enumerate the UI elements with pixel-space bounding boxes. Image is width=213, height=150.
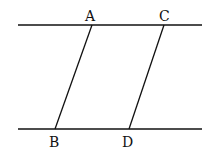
parallel-lines-diagram: A C B D <box>0 0 213 150</box>
segment-cd <box>129 25 164 129</box>
segment-ab <box>55 25 92 129</box>
point-label-a: A <box>84 8 96 24</box>
point-label-b: B <box>49 134 59 150</box>
point-label-d: D <box>122 134 133 150</box>
point-label-c: C <box>159 8 170 24</box>
diagram-svg: A C B D <box>0 0 213 150</box>
